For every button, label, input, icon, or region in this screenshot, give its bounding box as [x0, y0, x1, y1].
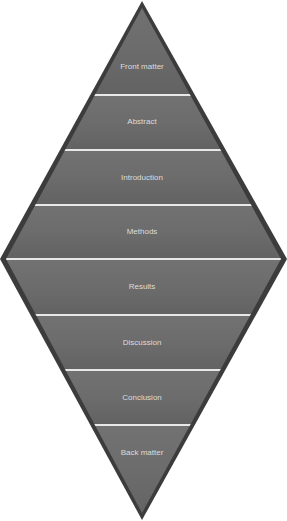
band-front-matter: [0, 0, 287, 95]
section-label-back-matter: Back matter: [121, 448, 164, 457]
section-label-conclusion: Conclusion: [122, 393, 162, 402]
diamond-body: [0, 0, 287, 521]
section-label-introduction: Introduction: [121, 173, 163, 182]
diamond-diagram: Front matter Abstract Introduction Metho…: [0, 0, 287, 521]
section-label-abstract: Abstract: [127, 117, 157, 126]
band-back-matter: [0, 425, 287, 521]
divider: [0, 369, 287, 371]
section-label-front-matter: Front matter: [120, 62, 164, 71]
section-label-discussion: Discussion: [123, 338, 162, 347]
divider: [0, 314, 287, 316]
divider: [0, 149, 287, 151]
divider: [0, 94, 287, 96]
section-label-methods: Methods: [127, 227, 158, 236]
section-label-results: Results: [129, 282, 156, 291]
divider: [0, 204, 287, 206]
divider: [0, 424, 287, 426]
divider: [0, 258, 287, 260]
